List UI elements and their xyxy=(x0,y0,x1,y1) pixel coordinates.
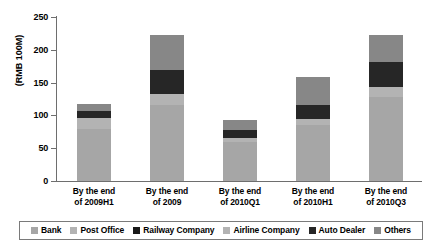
bar-segment xyxy=(369,35,403,63)
x-axis-label-line: By the end xyxy=(349,186,423,197)
y-axis-tick-label: 50 xyxy=(8,144,48,153)
x-axis-label-line: of 2009H1 xyxy=(57,197,131,208)
y-axis-tick-label: 200 xyxy=(8,46,48,55)
x-axis-label-line: of 2010Q1 xyxy=(203,197,277,208)
y-axis-title: (RMB 100M) xyxy=(15,16,24,106)
x-axis-label: By the endof 2010Q1 xyxy=(203,186,277,208)
legend-item[interactable]: Post Office xyxy=(70,226,124,235)
legend-label: Post Office xyxy=(80,226,124,235)
bar-segment xyxy=(150,105,184,181)
bar-segment xyxy=(150,94,184,105)
stacked-bar-chart: (RMB 100M) 250200150100500 By the endof … xyxy=(0,0,444,249)
x-axis-label: By the endof 2010H1 xyxy=(276,186,350,208)
bar-segment xyxy=(369,87,403,97)
legend-label: Others xyxy=(384,226,411,235)
legend-label: Auto Dealer xyxy=(319,226,366,235)
y-axis-tick xyxy=(51,148,56,149)
bar-segment xyxy=(150,70,184,94)
x-axis-label-line: By the end xyxy=(57,186,131,197)
x-axis-label: By the endof 2010Q3 xyxy=(349,186,423,208)
y-axis-tick-label: 150 xyxy=(8,79,48,88)
bar-segment xyxy=(77,129,111,181)
x-axis-label-line: of 2010H1 xyxy=(276,197,350,208)
legend-swatch-icon xyxy=(31,227,38,234)
y-axis-tick xyxy=(51,50,56,51)
legend-item[interactable]: Airline Company xyxy=(223,226,299,235)
y-axis-tick-label: 0 xyxy=(8,177,48,186)
legend-swatch-icon xyxy=(133,227,140,234)
x-axis-label-line: By the end xyxy=(130,186,204,197)
y-axis-tick xyxy=(51,115,56,116)
x-axis-label-line: of 2009 xyxy=(130,197,204,208)
bar-stack xyxy=(223,120,257,181)
bar-stack xyxy=(369,35,403,181)
bar-segment xyxy=(296,105,330,119)
legend-label: Airline Company xyxy=(233,226,299,235)
legend-swatch-icon xyxy=(223,227,230,234)
legend-item[interactable]: Auto Dealer xyxy=(309,226,366,235)
plot-area xyxy=(57,17,422,181)
legend-item[interactable]: Railway Company xyxy=(133,226,214,235)
x-axis-label-line: By the end xyxy=(203,186,277,197)
legend-label: Railway Company xyxy=(143,226,214,235)
x-axis-line xyxy=(56,181,422,182)
bar-stack xyxy=(150,35,184,181)
bar-segment xyxy=(77,104,111,111)
chart-legend: BankPost OfficeRailway CompanyAirline Co… xyxy=(19,221,423,240)
legend-swatch-icon xyxy=(374,227,381,234)
x-axis-label-line: By the end xyxy=(276,186,350,197)
legend-item[interactable]: Others xyxy=(374,226,411,235)
legend-label: Bank xyxy=(41,226,61,235)
y-axis-tick-label: 250 xyxy=(8,13,48,22)
y-axis-tick xyxy=(51,181,56,182)
bar-segment xyxy=(223,120,257,130)
legend-swatch-icon xyxy=(309,227,316,234)
y-axis-tick-label: 100 xyxy=(8,111,48,120)
x-axis-label: By the endof 2009 xyxy=(130,186,204,208)
bar-segment xyxy=(296,125,330,181)
x-axis-label: By the endof 2009H1 xyxy=(57,186,131,208)
y-axis-tick xyxy=(51,17,56,18)
bar-segment xyxy=(369,62,403,87)
bar-segment xyxy=(223,142,257,181)
legend-swatch-icon xyxy=(70,227,77,234)
bar-segment xyxy=(77,111,111,118)
bar-segment xyxy=(77,118,111,128)
bar-segment xyxy=(369,97,403,181)
bar-segment xyxy=(296,77,330,105)
x-axis-label-line: of 2010Q3 xyxy=(349,197,423,208)
bar-stack xyxy=(296,77,330,181)
legend-item[interactable]: Bank xyxy=(31,226,61,235)
y-axis-tick xyxy=(51,83,56,84)
bar-segment xyxy=(150,35,184,70)
bar-stack xyxy=(77,104,111,181)
bar-segment xyxy=(223,130,257,138)
